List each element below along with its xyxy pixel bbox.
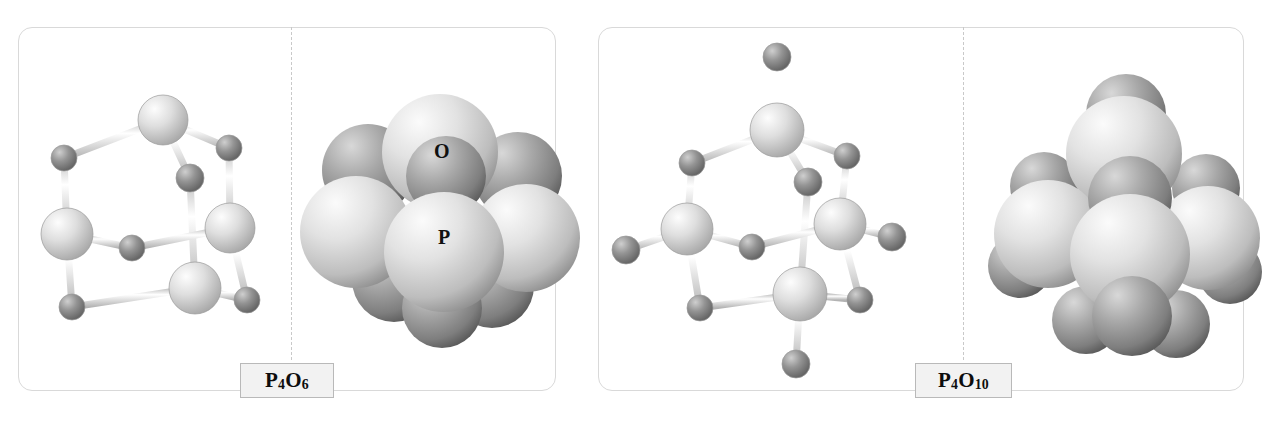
space-filling-model-p4o6 [322,72,562,332]
space-filling-model-p4o10 [1000,58,1250,358]
formula-subscript-10: 10 [975,377,989,393]
formula-element-o: O [285,368,302,393]
ball-stick-model-p4o10 [612,32,892,377]
formula-subscript-4: 4 [278,377,285,393]
formula-label-p4o6: P4O6 [240,363,334,398]
panel-divider-p4o10 [963,27,964,360]
formula-subscript-4: 4 [951,377,958,393]
formula-element-o: O [958,368,975,393]
formula-element-p: P [938,368,951,393]
formula-label-p4o10: P4O10 [915,363,1012,398]
panel-divider-p4o6 [291,27,292,360]
figure-stage: O P P4O6 [0,0,1262,431]
formula-subscript-6: 6 [302,377,309,393]
ball-stick-model-p4o6 [40,85,280,335]
formula-element-p: P [265,368,278,393]
